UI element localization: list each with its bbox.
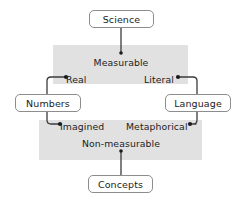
label-literal: Literal <box>144 74 174 85</box>
dot-metaphorical <box>188 122 192 126</box>
label-real: Real <box>66 74 86 85</box>
label-imagined: Imagined <box>60 121 104 132</box>
dot-non-measurable <box>119 149 123 153</box>
node-concepts-label: Concepts <box>98 179 143 190</box>
node-language-label: Language <box>174 98 222 109</box>
node-numbers-label: Numbers <box>26 98 70 109</box>
concept-map-diagram: Science Numbers Language Concepts Measur… <box>0 0 243 209</box>
label-metaphorical: Metaphorical <box>126 121 188 132</box>
node-language[interactable]: Language <box>165 94 231 112</box>
node-science-label: Science <box>103 14 141 25</box>
edge-numbers-imagined <box>47 112 60 124</box>
node-concepts[interactable]: Concepts <box>88 175 153 193</box>
node-science[interactable]: Science <box>89 10 154 28</box>
dot-literal <box>176 75 180 79</box>
label-measurable: Measurable <box>94 57 149 68</box>
edge-real-numbers <box>47 77 66 94</box>
edge-literal-language <box>178 77 197 94</box>
node-numbers[interactable]: Numbers <box>15 94 81 112</box>
dot-measurable <box>119 51 123 55</box>
label-non-measurable: Non-measurable <box>82 138 160 149</box>
